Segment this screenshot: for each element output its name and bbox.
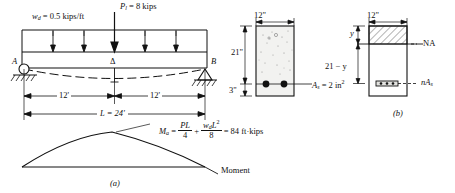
moment-equation: Ma = PL 4 + wdL2 8 = 84 ft·kips [159, 119, 263, 140]
dimension-total-span: L = 24' [97, 109, 128, 118]
dimension-right-span: 12' [148, 91, 162, 100]
deflection-symbol: Δ [110, 57, 115, 66]
point-load-label: Pl = 8 kips [120, 2, 156, 11]
section-a-cover-label: 3" [229, 86, 237, 95]
neutral-axis-label: NA [423, 39, 435, 48]
figure-root: wd = 0.5 kips/ft Pl = 8 kips A B Δ 12' 1… [0, 0, 455, 193]
distributed-load-label: wd = 0.5 kips/ft [32, 12, 84, 21]
figure-caption-b: (b) [393, 108, 403, 118]
dimension-left-span: 12' [57, 91, 71, 100]
transformed-steel-label: nAs [421, 78, 433, 87]
section-a-width-label: 12" [254, 11, 266, 20]
support-label-b: B [211, 57, 216, 66]
transformed-section-diagram [345, 8, 455, 123]
section-a-steel-area-label: As = 2 in2 [312, 79, 345, 90]
moment-axis-label: Moment [221, 166, 250, 175]
section-b-y-label: y [350, 29, 354, 38]
cross-section-reinforced [232, 8, 337, 108]
section-a-depth-label: 21" [231, 48, 243, 57]
moment-term-wl2-over-8: wdL2 8 [201, 119, 221, 140]
figure-caption-a: (a) [110, 178, 120, 188]
support-triangle-b [192, 69, 217, 86]
section-b-depth-minus-y-label: 21 − y [325, 62, 347, 71]
support-label-a: A [12, 57, 17, 66]
section-b-width-label: 12" [367, 11, 379, 20]
moment-term-pl-over-4: PL 4 [178, 121, 192, 140]
